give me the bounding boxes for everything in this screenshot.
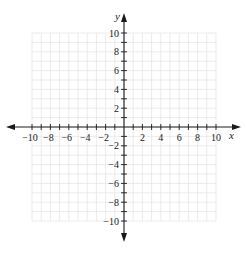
x-tick-label: −10 (22, 132, 38, 143)
x-axis-label: x (228, 129, 234, 141)
y-tick-label: 10 (109, 28, 119, 39)
y-tick-label: −2 (108, 140, 119, 151)
y-tick-label: 8 (114, 46, 119, 57)
x-tick-label: −6 (61, 132, 72, 143)
x-tick-label: −4 (80, 132, 91, 143)
y-tick-label: 4 (114, 84, 119, 95)
y-tick-label: 2 (114, 103, 119, 114)
coordinate-plane: −10−8−6−4−2246810108642−2−4−6−8−10xy (0, 0, 247, 253)
y-tick-label: −8 (108, 197, 119, 208)
x-tick-label: −8 (43, 132, 54, 143)
x-tick-label: 2 (140, 132, 145, 143)
y-tick-label: −10 (103, 216, 119, 227)
y-tick-label: −4 (108, 159, 119, 170)
x-tick-label: 6 (177, 132, 182, 143)
x-tick-label: 8 (195, 132, 200, 143)
y-axis-up-arrow-icon (121, 13, 127, 22)
x-tick-label: 10 (211, 132, 221, 143)
x-tick-label: 4 (158, 132, 163, 143)
y-axis-label: y (114, 10, 120, 22)
y-tick-label: 6 (114, 65, 119, 76)
x-axis-left-arrow-icon (6, 124, 15, 130)
y-axis-down-arrow-icon (121, 233, 127, 242)
x-tick-label: −2 (98, 132, 109, 143)
y-tick-label: −6 (108, 178, 119, 189)
